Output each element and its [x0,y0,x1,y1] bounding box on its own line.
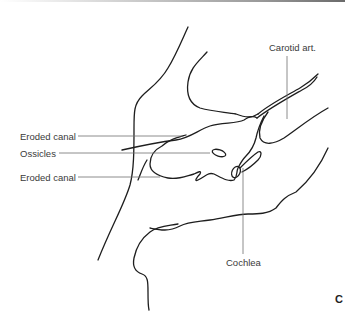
posterior-contour [133,224,178,310]
label-carotid-artery: Carotid art. [269,42,316,53]
panel-letter: C [335,293,343,305]
ossicle-shape [211,148,226,158]
middle-ear-roof [122,117,257,150]
carotid-wall-upper [258,74,318,114]
carotid-tongue [259,108,328,143]
petrous-ridge [150,148,328,230]
label-eroded-canal-top: Eroded canal [20,131,76,142]
middle-ear-cavity [150,116,264,181]
label-cochlea: Cochlea [226,257,261,268]
label-ossicles: Ossicles [20,148,56,159]
upper-bone-arc [188,52,259,117]
label-eroded-canal-bottom: Eroded canal [20,172,76,183]
